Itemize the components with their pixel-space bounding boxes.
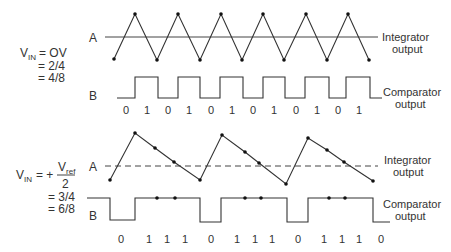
bottom-panel: VIN= + Vref 2 = 3/4 = 6/8 A B: [16, 131, 441, 245]
top-bit: 1: [144, 104, 150, 116]
top-bit: 1: [314, 104, 320, 116]
top-bit: 1: [186, 104, 192, 116]
bottom-bit: 1: [356, 233, 362, 245]
top-panel: VIN= OV = 2/4 = 4/8 A B Integrator: [20, 12, 441, 116]
bottom-bit: 1: [146, 233, 152, 245]
top-bit: 0: [293, 104, 299, 116]
bottom-bit-labels: 0 1 1 1 0 1 1 1 0 1 1 1 0: [118, 233, 384, 245]
top-bit: 0: [208, 104, 214, 116]
top-comparator-output-label-2: output: [395, 98, 426, 110]
bottom-integrator-output-label-2: output: [393, 166, 424, 178]
top-ratio-2: = 4/8: [38, 71, 65, 85]
top-bit: 1: [356, 104, 362, 116]
bottom-bit: 1: [182, 233, 188, 245]
bottom-ratio-2: = 6/8: [48, 202, 75, 216]
top-bit: 1: [229, 104, 235, 116]
bottom-integrator-output-label-1: Integrator: [384, 154, 431, 166]
bottom-bit: 0: [118, 233, 124, 245]
bottom-bit: 1: [321, 233, 327, 245]
top-integrator-output-label-1: Integrator: [382, 31, 429, 43]
dual-slope-waveform-diagram: VIN= OV = 2/4 = 4/8 A B Integrator: [0, 0, 451, 252]
top-trace-b-label: B: [89, 89, 97, 103]
bottom-bit: 0: [295, 233, 301, 245]
top-bit: 0: [335, 104, 341, 116]
bottom-integrator-waveform: [110, 133, 373, 184]
top-bit: 1: [271, 104, 277, 116]
bottom-trace-b-label: B: [89, 209, 97, 223]
top-comparator-output-label-1: Comparator: [383, 86, 441, 98]
bottom-bit: 0: [208, 233, 214, 245]
top-bit: 0: [123, 104, 129, 116]
bottom-bit: 1: [234, 233, 240, 245]
bottom-vin-label: VIN= +: [16, 168, 53, 184]
bottom-bit: 1: [164, 233, 170, 245]
top-comparator-waveform: [117, 77, 382, 98]
bottom-bit: 0: [378, 233, 384, 245]
bottom-comparator-waveform: [87, 198, 390, 222]
bottom-bit: 1: [339, 233, 345, 245]
bottom-bit: 1: [269, 233, 275, 245]
bottom-vref-denominator: 2: [62, 177, 69, 191]
top-bit-labels: 0 1 0 1 0 1 0 1 0 1 0 1: [123, 104, 362, 116]
top-bit: 0: [250, 104, 256, 116]
top-trace-a-label: A: [89, 31, 97, 45]
bottom-comparator-output-label-1: Comparator: [383, 198, 441, 210]
bottom-integrator-points: [108, 131, 375, 186]
bottom-comparator-output-label-2: output: [395, 210, 426, 222]
bottom-trace-a-label: A: [89, 160, 97, 174]
bottom-vref-label: Vref: [58, 160, 76, 176]
bottom-bit: 1: [252, 233, 258, 245]
top-integrator-output-label-2: output: [392, 43, 423, 55]
top-bit: 0: [165, 104, 171, 116]
